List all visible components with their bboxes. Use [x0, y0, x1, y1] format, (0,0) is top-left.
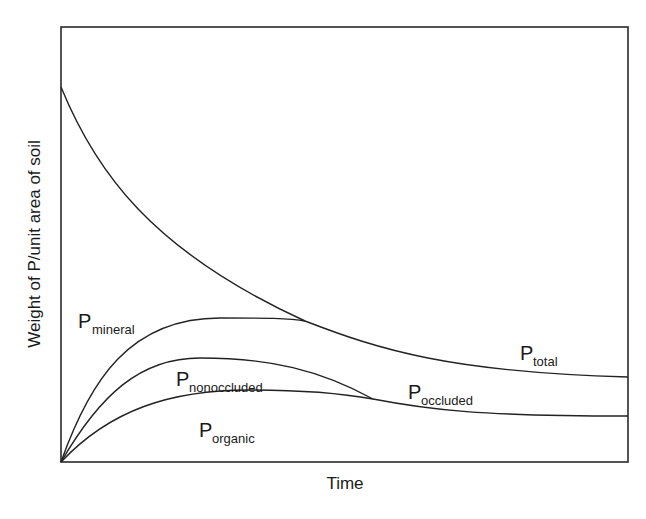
y-axis-label: Weight of P/unit area of soil [25, 140, 44, 348]
curve-p-total [61, 87, 628, 377]
plot-frame [61, 27, 628, 462]
svg-text:organic: organic [212, 431, 255, 446]
label-p-organic: P organic [199, 419, 255, 446]
x-axis-label: Time [326, 474, 363, 493]
svg-text:P: P [176, 368, 189, 390]
svg-text:nonoccluded: nonoccluded [189, 380, 263, 395]
label-p-total: P total [520, 342, 558, 369]
label-p-occluded: P occluded [408, 381, 473, 408]
label-p-nonoccluded: P nonoccluded [176, 368, 263, 395]
svg-text:P: P [520, 342, 533, 364]
svg-text:total: total [533, 354, 558, 369]
svg-text:P: P [199, 419, 212, 441]
curve-p-nonoccluded [61, 358, 373, 462]
soil-phosphorus-diagram: Time Weight of P/unit area of soil P min… [0, 0, 646, 519]
label-p-mineral: P mineral [78, 310, 135, 337]
svg-text:occluded: occluded [421, 393, 473, 408]
svg-text:mineral: mineral [92, 322, 135, 337]
svg-text:P: P [408, 381, 421, 403]
svg-text:P: P [78, 310, 91, 332]
curve-p-organic [61, 390, 628, 462]
